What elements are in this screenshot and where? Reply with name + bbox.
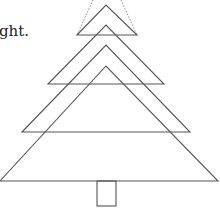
triangle-1	[77, 5, 137, 35]
guide-line-1	[77, 0, 93, 35]
guide-line-2	[121, 0, 137, 35]
tree-triangles	[0, 5, 218, 181]
triangle-2	[48, 25, 164, 84]
triangle-3	[22, 45, 190, 132]
tree-diagram	[0, 0, 220, 211]
tree-trunk	[97, 181, 116, 206]
triangle-4	[0, 66, 218, 181]
